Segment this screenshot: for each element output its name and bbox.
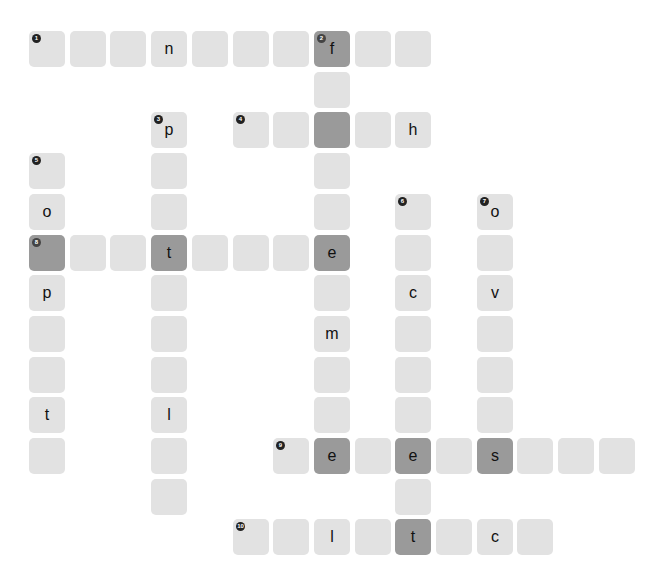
crossword-cell-r7-c3[interactable]	[151, 316, 187, 352]
crossword-cell-r5-c7[interactable]: e	[314, 235, 350, 271]
crossword-cell-r5-c1[interactable]	[70, 235, 106, 271]
crossword-cell-r10-c0[interactable]	[29, 438, 65, 474]
crossword-cell-r7-c11[interactable]	[477, 316, 513, 352]
crossword-cell-r0-c1[interactable]	[70, 31, 106, 67]
crossword-cell-r12-c11[interactable]: c	[477, 519, 513, 555]
crossword-cell-r3-c3[interactable]	[151, 153, 187, 189]
crossword-cell-r0-c7[interactable]: 2f	[314, 31, 350, 67]
crossword-cell-r4-c9[interactable]: 6	[395, 194, 431, 230]
crossword-cell-r5-c9[interactable]	[395, 235, 431, 271]
crossword-cell-r12-c12[interactable]	[517, 519, 553, 555]
crossword-cell-r2-c3[interactable]: 3p	[151, 112, 187, 148]
crossword-cell-r0-c9[interactable]	[395, 31, 431, 67]
crossword-cell-r0-c3[interactable]: n	[151, 31, 187, 67]
crossword-cell-r0-c0[interactable]: 1	[29, 31, 65, 67]
crossword-cell-r4-c7[interactable]	[314, 194, 350, 230]
crossword-cell-r0-c5[interactable]	[233, 31, 269, 67]
clue-number-badge: 9	[276, 441, 285, 450]
crossword-cell-r8-c11[interactable]	[477, 357, 513, 393]
crossword-cell-r9-c0[interactable]: t	[29, 397, 65, 433]
crossword-cell-r9-c3[interactable]: l	[151, 397, 187, 433]
cell-letter: e	[314, 447, 350, 465]
crossword-cell-r1-c7[interactable]	[314, 72, 350, 108]
crossword-cell-r10-c11[interactable]: s	[477, 438, 513, 474]
crossword-cell-r5-c6[interactable]	[273, 235, 309, 271]
crossword-cell-r8-c9[interactable]	[395, 357, 431, 393]
cell-letter: h	[395, 121, 431, 139]
crossword-cell-r0-c2[interactable]	[110, 31, 146, 67]
crossword-cell-r10-c14[interactable]	[599, 438, 635, 474]
crossword-cell-r6-c3[interactable]	[151, 275, 187, 311]
clue-number-badge: 6	[398, 197, 407, 206]
crossword-cell-r10-c6[interactable]: 9	[273, 438, 309, 474]
crossword-cell-r2-c6[interactable]	[273, 112, 309, 148]
crossword-cell-r7-c7[interactable]: m	[314, 316, 350, 352]
crossword-cell-r5-c2[interactable]	[110, 235, 146, 271]
crossword-cell-r9-c9[interactable]	[395, 397, 431, 433]
crossword-cell-r6-c7[interactable]	[314, 275, 350, 311]
crossword-cell-r6-c0[interactable]: p	[29, 275, 65, 311]
crossword-cell-r6-c9[interactable]: c	[395, 275, 431, 311]
cell-letter: n	[151, 40, 187, 58]
crossword-cell-r2-c9[interactable]: h	[395, 112, 431, 148]
crossword-cell-r10-c7[interactable]: e	[314, 438, 350, 474]
cell-letter: m	[314, 325, 350, 343]
crossword-cell-r5-c5[interactable]	[233, 235, 269, 271]
crossword-cell-r4-c0[interactable]: o	[29, 194, 65, 230]
crossword-cell-r2-c8[interactable]	[355, 112, 391, 148]
cell-letter: e	[395, 447, 431, 465]
crossword-cell-r9-c7[interactable]	[314, 397, 350, 433]
crossword-cell-r7-c9[interactable]	[395, 316, 431, 352]
crossword-cell-r3-c0[interactable]: 5	[29, 153, 65, 189]
cell-letter: c	[395, 284, 431, 302]
cell-letter: o	[477, 203, 513, 221]
crossword-cell-r2-c7[interactable]	[314, 112, 350, 148]
cell-letter: l	[151, 406, 187, 424]
crossword-cell-r11-c3[interactable]	[151, 479, 187, 515]
crossword-cell-r10-c3[interactable]	[151, 438, 187, 474]
crossword-cell-r5-c0[interactable]: 8	[29, 235, 65, 271]
crossword-cell-r7-c0[interactable]	[29, 316, 65, 352]
cell-letter: e	[314, 244, 350, 262]
clue-number-badge: 4	[236, 115, 245, 124]
crossword-cell-r6-c11[interactable]: v	[477, 275, 513, 311]
crossword-cell-r11-c9[interactable]	[395, 479, 431, 515]
crossword-cell-r5-c3[interactable]: t	[151, 235, 187, 271]
clue-number-badge: 8	[32, 238, 41, 247]
crossword-cell-r10-c13[interactable]	[558, 438, 594, 474]
cell-letter: c	[477, 528, 513, 546]
cell-letter: t	[395, 528, 431, 546]
crossword-cell-r2-c5[interactable]: 4	[233, 112, 269, 148]
crossword-cell-r12-c7[interactable]: l	[314, 519, 350, 555]
clue-number-badge: 1	[32, 34, 41, 43]
crossword-cell-r4-c11[interactable]: 7o	[477, 194, 513, 230]
crossword-cell-r8-c0[interactable]	[29, 357, 65, 393]
crossword-cell-r12-c6[interactable]	[273, 519, 309, 555]
crossword-board: 1n2feme4h3ptl5o8pt6ce7ovs910ltc	[0, 0, 658, 578]
crossword-cell-r0-c8[interactable]	[355, 31, 391, 67]
crossword-cell-r12-c5[interactable]: 10	[233, 519, 269, 555]
crossword-cell-r10-c12[interactable]	[517, 438, 553, 474]
crossword-cell-r12-c10[interactable]	[436, 519, 472, 555]
cell-letter: l	[314, 528, 350, 546]
cell-letter: t	[29, 406, 65, 424]
cell-letter: o	[29, 203, 65, 221]
crossword-cell-r4-c3[interactable]	[151, 194, 187, 230]
crossword-cell-r8-c7[interactable]	[314, 357, 350, 393]
crossword-cell-r3-c7[interactable]	[314, 153, 350, 189]
crossword-cell-r8-c3[interactable]	[151, 357, 187, 393]
crossword-cell-r0-c4[interactable]	[192, 31, 228, 67]
crossword-cell-r10-c8[interactable]	[355, 438, 391, 474]
clue-number-badge: 5	[32, 156, 41, 165]
crossword-cell-r9-c11[interactable]	[477, 397, 513, 433]
crossword-cell-r0-c6[interactable]	[273, 31, 309, 67]
clue-number-badge: 10	[236, 522, 245, 531]
crossword-cell-r10-c9[interactable]: e	[395, 438, 431, 474]
crossword-cell-r10-c10[interactable]	[436, 438, 472, 474]
cell-letter: f	[314, 40, 350, 58]
crossword-cell-r5-c11[interactable]	[477, 235, 513, 271]
cell-letter: t	[151, 244, 187, 262]
crossword-cell-r12-c9[interactable]: t	[395, 519, 431, 555]
crossword-cell-r12-c8[interactable]	[355, 519, 391, 555]
crossword-cell-r5-c4[interactable]	[192, 235, 228, 271]
